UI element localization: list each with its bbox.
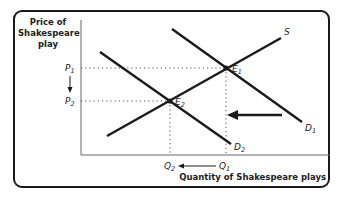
quantity-drop-arrowhead: [178, 164, 184, 169]
p2-label: P2: [65, 96, 75, 108]
supply-label: S: [284, 27, 290, 37]
equilibrium-point-e1: [223, 65, 228, 70]
price-drop-arrowhead: [68, 87, 73, 93]
q1-label: Q1: [219, 161, 230, 173]
e2-label: E2: [175, 97, 185, 109]
demand-shift-arrowhead: [227, 110, 238, 120]
supply-demand-chart: S D1 D2 E1 E2 P1 P2 Q2 Q1: [0, 0, 350, 203]
d1-label: D1: [305, 123, 316, 135]
p1-label: P1: [65, 63, 75, 75]
d2-label: D2: [234, 142, 245, 154]
equilibrium-point-e2: [167, 98, 172, 103]
q2-label: Q2: [164, 161, 175, 173]
